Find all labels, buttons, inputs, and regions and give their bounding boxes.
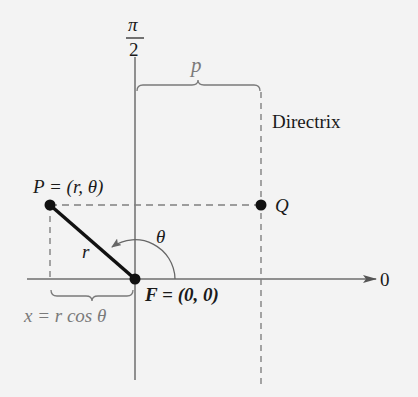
label-p: p <box>189 53 202 77</box>
label-point-q: Q <box>275 195 289 216</box>
label-two: 2 <box>129 39 139 60</box>
label-focus: F = (0, 0) <box>144 284 219 306</box>
label-pi: π <box>128 14 138 35</box>
label-directrix: Directrix <box>272 111 341 132</box>
label-theta: θ <box>156 226 165 247</box>
label-polar-zero: 0 <box>380 269 390 290</box>
polar-conic-diagram: π 2 p Directrix P = (r, θ) Q r θ F = (0,… <box>0 0 418 397</box>
label-r: r <box>82 241 90 262</box>
brace-x <box>51 290 133 301</box>
point-f <box>130 274 141 285</box>
diagram-canvas: π 2 p Directrix P = (r, θ) Q r θ F = (0,… <box>0 0 418 397</box>
label-x-relation: x = r cos θ <box>23 305 106 326</box>
point-p <box>45 200 56 211</box>
theta-arc <box>112 240 175 279</box>
label-point-p: P = (r, θ) <box>32 176 103 198</box>
brace-p <box>137 80 260 91</box>
point-q <box>256 200 267 211</box>
